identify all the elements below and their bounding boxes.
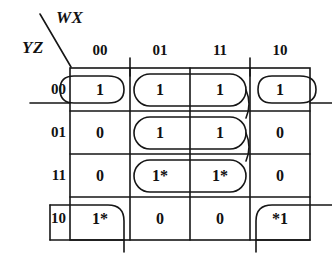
- kmap-line-art: [0, 0, 332, 254]
- group-vertical-connector-b: [246, 133, 249, 161]
- kmap-container: WX YZ 00 01 11 10 00 01 11 10 1 1 1 1 0 …: [0, 0, 332, 254]
- header-diagonal-line: [40, 14, 71, 67]
- group-corner-bottom-left: [50, 205, 124, 252]
- group-vertical-connector-a: [246, 90, 249, 118]
- group-wrap-top-right: [258, 76, 316, 103]
- group-corner-bottom-right: [256, 205, 332, 252]
